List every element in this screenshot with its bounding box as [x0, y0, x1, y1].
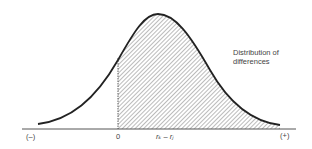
axis-label-zero: 0 — [116, 132, 120, 141]
axis-label-left: (–) — [26, 132, 35, 141]
annotation-line1: Distribution of — [233, 48, 279, 57]
normal-curve-plot — [0, 0, 312, 149]
annotation-line2: differences — [233, 57, 279, 66]
axis-label-mean: rₖ – rⱼ — [156, 132, 173, 141]
shaded-area — [38, 14, 280, 129]
figure: (–) 0 rₖ – rⱼ (+) Distribution of differ… — [0, 0, 312, 149]
annotation: Distribution of differences — [233, 48, 279, 66]
axis-label-right: (+) — [280, 131, 289, 140]
